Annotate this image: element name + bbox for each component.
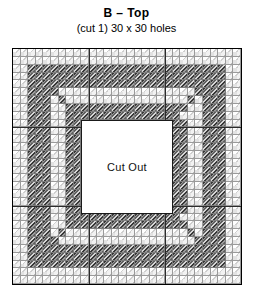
grid-cell (28, 80, 36, 88)
grid-cell (188, 245, 196, 253)
grid-cell (13, 49, 21, 57)
grid-cell (28, 245, 36, 253)
grid-cell (142, 49, 150, 57)
grid-cell (233, 159, 241, 167)
grid-cell (135, 96, 143, 104)
grid-cell (36, 229, 44, 237)
grid-cell (233, 120, 241, 128)
grid-cell (13, 57, 21, 65)
grid-cell (211, 65, 219, 73)
grid-cell (188, 127, 196, 135)
grid-cell (226, 143, 234, 151)
grid-cell (104, 112, 112, 120)
grid-cell (112, 261, 120, 269)
grid-cell (233, 151, 241, 159)
grid-cell (203, 127, 211, 135)
grid-cell (112, 73, 120, 81)
grid-cell (180, 276, 188, 284)
grid-cell (119, 229, 127, 237)
grid-cell (180, 49, 188, 57)
grid-cell (218, 245, 226, 253)
grid-cell (226, 104, 234, 112)
grid-cell (13, 229, 21, 237)
grid-cell (188, 73, 196, 81)
grid-cell (233, 221, 241, 229)
grid-cell (173, 73, 181, 81)
grid-cell (43, 167, 51, 175)
grid-cell (112, 57, 120, 65)
grid-cell (233, 167, 241, 175)
grid-cell (43, 261, 51, 269)
grid-cell (135, 245, 143, 253)
grid-cell (173, 174, 181, 182)
grid-cell (218, 127, 226, 135)
grid-cell (36, 127, 44, 135)
grid-cell (112, 112, 120, 120)
grid-cell (226, 182, 234, 190)
grid-cell (150, 112, 158, 120)
grid-cell (59, 65, 67, 73)
grid-cell (211, 135, 219, 143)
grid-cell (188, 182, 196, 190)
grid-cell (218, 112, 226, 120)
grid-cell (81, 214, 89, 222)
grid-cell (142, 237, 150, 245)
grid-cell (150, 57, 158, 65)
grid-cell (195, 73, 203, 81)
grid-cell (36, 143, 44, 151)
grid-cell (157, 276, 165, 284)
grid-cell (28, 65, 36, 73)
grid-cell (89, 253, 97, 261)
grid-cell (51, 237, 59, 245)
grid-cell (36, 237, 44, 245)
grid-cell (28, 167, 36, 175)
grid-cell (157, 214, 165, 222)
grid-cell (13, 104, 21, 112)
grid-cell (218, 190, 226, 198)
grid-cell (51, 261, 59, 269)
grid-cell (66, 112, 74, 120)
grid-cell (13, 261, 21, 269)
grid-cell (28, 57, 36, 65)
grid-cell (21, 167, 29, 175)
grid-cell (43, 214, 51, 222)
grid-cell (157, 73, 165, 81)
grid-cell (97, 229, 105, 237)
grid-cell (74, 221, 82, 229)
grid-cell (173, 229, 181, 237)
grid-cell (43, 65, 51, 73)
grid-cell (74, 253, 82, 261)
grid-cell (173, 268, 181, 276)
grid-cell (135, 73, 143, 81)
grid-cell (233, 104, 241, 112)
grid-cell (89, 276, 97, 284)
grid-cell (13, 214, 21, 222)
grid-cell (203, 190, 211, 198)
grid-cell (203, 198, 211, 206)
grid-cell (66, 57, 74, 65)
grid-cell (89, 49, 97, 57)
grid-cell (226, 88, 234, 96)
grid-cell (59, 143, 67, 151)
grid-cell (188, 49, 196, 57)
grid-cell (43, 159, 51, 167)
grid-cell (51, 198, 59, 206)
grid-cell (157, 88, 165, 96)
grid-cell (66, 198, 74, 206)
grid-cell (203, 135, 211, 143)
grid-cell (195, 214, 203, 222)
grid-cell (97, 261, 105, 269)
grid-cell (59, 268, 67, 276)
grid-cell (195, 198, 203, 206)
grid-cell (51, 143, 59, 151)
grid-cell (66, 190, 74, 198)
grid-cell (21, 96, 29, 104)
grid-cell (165, 80, 173, 88)
grid-cell (59, 151, 67, 159)
grid-cell (150, 261, 158, 269)
grid-cell (51, 276, 59, 284)
grid-cell (135, 49, 143, 57)
grid-cell (36, 57, 44, 65)
grid-cell (218, 261, 226, 269)
grid-cell (226, 268, 234, 276)
